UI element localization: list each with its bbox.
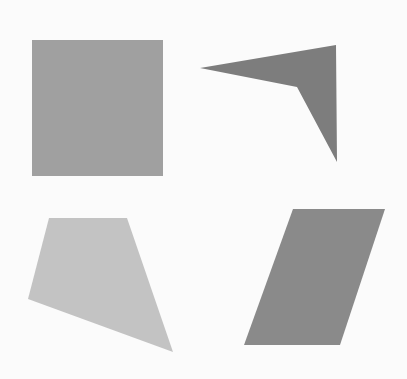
shapes-canvas	[0, 0, 407, 379]
concave-quadrilateral-shape	[200, 45, 337, 162]
square-shape	[32, 40, 163, 176]
quadrilateral-shape	[28, 218, 173, 352]
parallelogram-shape	[244, 209, 385, 345]
